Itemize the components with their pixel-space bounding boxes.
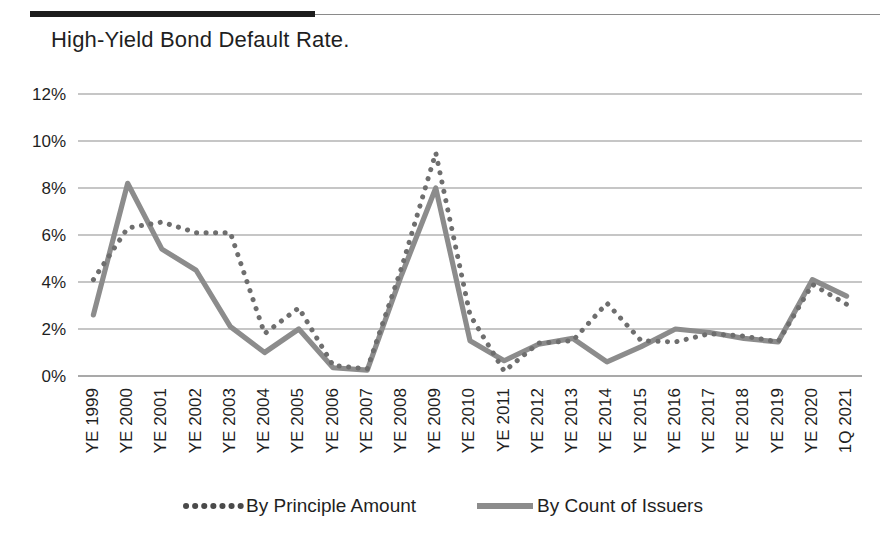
y-axis-tick-label: 10% xyxy=(32,132,66,151)
y-axis-tick-label: 12% xyxy=(32,85,66,104)
chart-plot: 0%2%4%6%8%10%12% YE 1999YE 2000YE 2001YE… xyxy=(0,0,886,547)
x-axis-tick-labels: YE 1999YE 2000YE 2001YE 2002YE 2003YE 20… xyxy=(83,388,855,453)
legend-swatch-solid-icon xyxy=(474,496,536,516)
x-axis-tick-label: 1Q 2021 xyxy=(836,388,855,453)
y-axis-tick-label: 0% xyxy=(41,367,66,386)
legend-label-by-principle-amount: By Principle Amount xyxy=(246,495,416,517)
x-axis-tick-label: YE 2007 xyxy=(357,388,376,453)
x-axis-tick-label: YE 2010 xyxy=(459,388,478,453)
x-axis-tick-label: YE 2001 xyxy=(151,388,170,453)
x-axis-tick-label: YE 2012 xyxy=(528,388,547,453)
x-axis-tick-label: YE 2008 xyxy=(391,388,410,453)
legend-item-by-count-of-issuers[interactable]: By Count of Issuers xyxy=(474,495,703,517)
x-axis-tick-label: YE 2006 xyxy=(323,388,342,453)
x-axis-tick-label: YE 2011 xyxy=(494,388,513,452)
x-axis-tick-label: YE 2015 xyxy=(631,388,650,453)
x-axis-tick-label: YE 2000 xyxy=(117,388,136,453)
x-axis-tick-label: YE 2002 xyxy=(186,388,205,453)
legend-label-by-count-of-issuers: By Count of Issuers xyxy=(537,495,703,517)
x-axis-tick-label: YE 2005 xyxy=(288,388,307,453)
x-axis-tick-label: YE 2004 xyxy=(254,388,273,453)
legend-swatch-dotted-icon xyxy=(183,496,245,516)
y-axis-tick-label: 6% xyxy=(41,226,66,245)
chart-legend: By Principle Amount By Count of Issuers xyxy=(0,495,886,517)
y-axis-tick-label: 8% xyxy=(41,179,66,198)
x-axis-tick-label: YE 2014 xyxy=(596,388,615,453)
x-axis-tick-label: YE 2020 xyxy=(802,388,821,453)
legend-item-by-principle-amount[interactable]: By Principle Amount xyxy=(183,495,416,517)
x-axis-tick-label: YE 2013 xyxy=(562,388,581,453)
y-axis-tick-label: 2% xyxy=(41,320,66,339)
x-axis-tick-label: YE 2018 xyxy=(733,388,752,453)
chart-card: High-Yield Bond Default Rate. 0%2%4%6%8%… xyxy=(0,0,886,547)
data-series-group xyxy=(93,153,846,372)
y-axis-tick-labels: 0%2%4%6%8%10%12% xyxy=(32,85,66,386)
x-axis-tick-label: YE 2003 xyxy=(220,388,239,453)
x-axis-tick-label: YE 1999 xyxy=(83,388,102,453)
x-axis-tick-label: YE 2016 xyxy=(665,388,684,453)
x-axis-tick-label: YE 2017 xyxy=(699,388,718,453)
series-line-by-count-of-issuers xyxy=(93,183,846,370)
x-axis-tick-label: YE 2019 xyxy=(768,388,787,453)
x-axis-tick-label: YE 2009 xyxy=(425,388,444,453)
y-axis-tick-label: 4% xyxy=(41,273,66,292)
